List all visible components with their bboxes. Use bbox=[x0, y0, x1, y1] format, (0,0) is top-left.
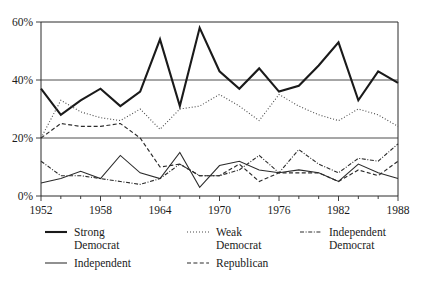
y-tick-label-0: 0% bbox=[18, 190, 34, 202]
y-tick-label-40: 40% bbox=[12, 74, 34, 86]
x-tick-label-1976: 1976 bbox=[268, 204, 291, 216]
series-line-weak-democrat bbox=[41, 95, 398, 139]
x-tick-label-1958: 1958 bbox=[89, 204, 112, 216]
x-tick-label-1988: 1988 bbox=[387, 204, 410, 216]
x-tick-label-1964: 1964 bbox=[149, 204, 172, 216]
legend-label-weak-democrat: Weak bbox=[216, 226, 242, 238]
gridlines bbox=[41, 80, 398, 138]
party-identification-line-chart: 60% 40% 20% 0% 1952195819641970197619821… bbox=[0, 0, 422, 292]
legend-label-strong-democrat: Strong bbox=[74, 226, 105, 239]
x-axis-labels: 1952195819641970197619821988 bbox=[30, 204, 410, 216]
chart-legend: StrongDemocratWeakDemocratIndependentDem… bbox=[45, 226, 387, 270]
series-line-independent bbox=[41, 153, 398, 188]
legend-label-weak-democrat-line2: Democrat bbox=[216, 239, 262, 251]
data-series-group bbox=[41, 28, 398, 188]
legend-label-independent: Independent bbox=[74, 257, 132, 270]
chart-figure: 60% 40% 20% 0% 1952195819641970197619821… bbox=[0, 0, 422, 292]
x-tick-marks bbox=[41, 196, 398, 201]
y-axis-labels: 60% 40% 20% 0% bbox=[12, 16, 34, 202]
y-tick-marks bbox=[36, 22, 41, 196]
x-tick-label-1952: 1952 bbox=[30, 204, 53, 216]
y-tick-label-20: 20% bbox=[12, 132, 34, 144]
legend-label-independent-democrat: Independent bbox=[329, 226, 387, 239]
legend-label-independent-democrat-line2: Democrat bbox=[329, 239, 375, 251]
legend-label-republican: Republican bbox=[216, 257, 269, 270]
plot-frame bbox=[41, 22, 398, 196]
y-tick-label-60: 60% bbox=[12, 16, 34, 28]
x-tick-label-1982: 1982 bbox=[327, 204, 350, 216]
series-line-strong-democrat bbox=[41, 28, 398, 115]
x-tick-label-1970: 1970 bbox=[208, 204, 231, 216]
series-line-republican bbox=[41, 124, 398, 182]
legend-label-strong-democrat-line2: Democrat bbox=[74, 239, 120, 251]
